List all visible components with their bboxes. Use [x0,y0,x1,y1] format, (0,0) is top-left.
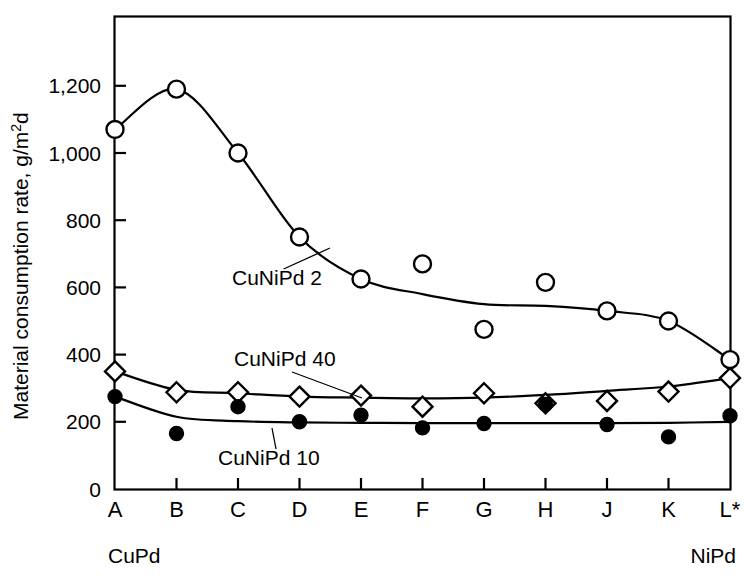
data-point [537,274,554,291]
data-point [354,408,368,422]
data-point [539,397,553,411]
x-tick-label: H [538,497,554,522]
data-point [722,351,739,368]
data-point-filled-circle [600,417,614,431]
data-point-open-circle [722,351,739,368]
data-point [477,416,491,430]
series-annotation-label: CuNiPd 2 [232,266,322,289]
data-point [416,421,430,435]
data-point-filled-circle [662,430,676,444]
data-point-filled-circle [231,400,245,414]
data-point-open-circle [660,313,677,330]
x-tick-label: C [230,497,246,522]
chart-graphic: Material consumption rate, g/m2d [8,112,32,420]
y-tick-label: 800 [66,209,101,232]
data-point [600,417,614,431]
x-tick-label: E [354,497,369,522]
data-point-open-circle [230,145,247,162]
x-tick-label: B [169,497,184,522]
data-point-filled-circle [723,409,737,423]
y-tick-label: 0 [89,478,101,501]
x-tick-label: A [108,497,123,522]
chart-figure: 02004006008001,0001,200 ABCDEFGHJKL* CuN… [0,0,746,576]
chart-graphic: 2 [8,124,24,132]
chart-graphic: CuPd [108,544,161,567]
data-point-open-circle [537,274,554,291]
data-point-open-circle [476,321,493,338]
y-axis-title: Material consumption rate, g/m2d [8,112,32,420]
data-point [662,430,676,444]
data-point [108,390,122,404]
x-tick-label: L* [720,497,741,522]
x-tick-label: J [602,497,613,522]
data-point [231,400,245,414]
data-point [723,409,737,423]
data-point-filled-circle [108,390,122,404]
y-tick-label: 1,000 [48,142,101,165]
data-point-filled-circle [293,415,307,429]
data-point [168,81,185,98]
y-tick-label: 1,200 [48,74,101,97]
data-point [293,415,307,429]
data-point-open-circle [291,229,308,246]
data-point [230,145,247,162]
data-point [353,271,370,288]
data-point [291,229,308,246]
data-point [107,121,124,138]
data-point-filled-circle [354,408,368,422]
y-tick-label: 600 [66,276,101,299]
data-point-open-circle [414,255,431,272]
data-point [414,255,431,272]
chart-graphic: d [9,112,32,124]
data-point-filled-circle [477,416,491,430]
data-point [660,313,677,330]
data-point [476,321,493,338]
data-point-open-circle [353,271,370,288]
series-annotation-label: CuNiPd 40 [234,347,336,370]
y-tick-label: 400 [66,343,101,366]
data-point [599,302,616,319]
data-point-open-circle [107,121,124,138]
data-point-open-circle [168,81,185,98]
chart-graphic: Material consumption rate, g/m [9,132,32,420]
x-tick-label: G [475,497,492,522]
x-tick-label: D [292,497,308,522]
data-point-filled-circle [170,427,184,441]
data-point-open-circle [599,302,616,319]
chart-graphic: NiPd [690,544,736,567]
x-tick-label: F [416,497,429,522]
material-consumption-rate-chart: 02004006008001,0001,200 ABCDEFGHJKL* CuN… [0,0,746,576]
y-tick-label: 200 [66,410,101,433]
data-point-filled-circle [539,397,553,411]
x-tick-label: K [661,497,676,522]
data-point [170,427,184,441]
series-annotation-label: CuNiPd 10 [218,446,320,469]
data-point-filled-circle [416,421,430,435]
